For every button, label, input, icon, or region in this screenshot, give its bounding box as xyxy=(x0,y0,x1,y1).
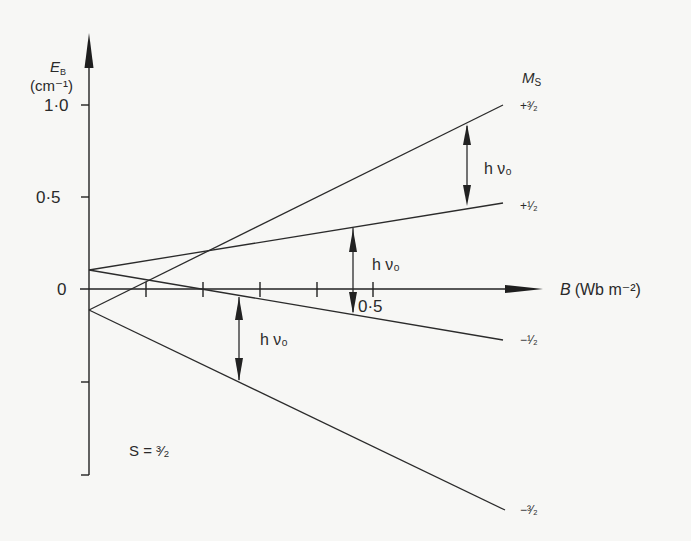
transition-arrow-upper xyxy=(463,124,471,206)
y-axis xyxy=(81,33,94,475)
y-axis-arrow-icon xyxy=(85,33,94,68)
ms-label-minus-3-2: −³⁄₂ xyxy=(520,503,538,517)
transition-arrow-middle xyxy=(349,228,357,314)
arrow-down-icon xyxy=(463,185,471,206)
y-axis-unit: (cm⁻¹) xyxy=(30,77,73,94)
y-tick-label-1: 1·0 xyxy=(44,96,69,115)
x-axis-arrow-icon xyxy=(505,285,543,293)
y-tick-label-0: 0 xyxy=(57,280,66,299)
arrow-up-icon xyxy=(235,297,243,320)
transition-arrow-lower xyxy=(235,297,243,381)
level-line-minus-1-2 xyxy=(89,270,503,340)
spin-label: S = ³⁄₂ xyxy=(129,442,170,459)
arrow-down-icon xyxy=(349,292,357,314)
transition-label-lower: h ν₀ xyxy=(260,331,288,348)
ms-label-plus-3-2: +³⁄₂ xyxy=(520,99,538,113)
ms-label-minus-1-2: −¹⁄₂ xyxy=(520,333,538,347)
arrow-up-icon xyxy=(349,229,357,252)
ms-label-plus-1-2: +¹⁄₂ xyxy=(520,199,538,213)
x-axis xyxy=(80,282,543,297)
level-line-plus-3-2 xyxy=(89,105,503,310)
x-axis-label: B(Wb m⁻²) xyxy=(560,281,641,298)
transition-label-middle: h ν₀ xyxy=(372,256,400,273)
level-line-minus-3-2 xyxy=(89,310,505,510)
arrow-up-icon xyxy=(463,124,471,145)
level-line-plus-1-2 xyxy=(89,203,503,270)
y-axis-symbol: EB xyxy=(50,58,66,77)
arrow-down-icon xyxy=(235,358,243,381)
y-tick-label-0-5: 0·5 xyxy=(36,188,61,207)
x-tick-label-0-5: 0·5 xyxy=(358,297,383,316)
ms-header: MS xyxy=(522,69,542,88)
energy-level-diagram: EB (cm⁻¹) 1·0 0·5 0 0·5 B(Wb m⁻²) MS +³⁄… xyxy=(0,0,691,541)
transition-label-upper: h ν₀ xyxy=(484,160,512,177)
